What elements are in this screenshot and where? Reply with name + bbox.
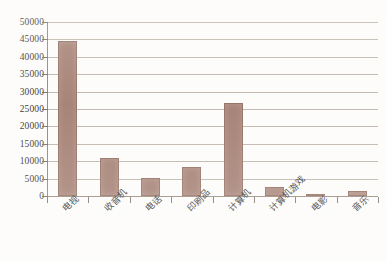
x-tick-mark [337, 197, 338, 203]
y-tick-label: 45000 [0, 34, 44, 44]
bars-layer [47, 22, 378, 196]
y-tick-label: 30000 [0, 87, 44, 97]
bar [58, 41, 77, 196]
x-tick-mark [213, 197, 214, 203]
x-tick-mark [378, 197, 379, 203]
y-tick-label: 35000 [0, 69, 44, 79]
y-tick-label: 5000 [0, 174, 44, 184]
x-tick-mark [130, 197, 131, 203]
y-tick-label: 50000 [0, 17, 44, 27]
y-tick-label: 25000 [0, 104, 44, 114]
bar-chart: 0500010000150002000025000300003500040000… [0, 0, 386, 262]
x-tick-mark [254, 197, 255, 203]
bar [224, 103, 243, 196]
x-tick-mark [295, 197, 296, 203]
x-tick-mark [171, 197, 172, 203]
y-tick-label: 40000 [0, 52, 44, 62]
y-tick-label: 0 [0, 191, 44, 201]
x-tick-mark [47, 197, 48, 203]
x-tick-mark [88, 197, 89, 203]
y-tick-label: 10000 [0, 156, 44, 166]
y-tick-label: 15000 [0, 139, 44, 149]
y-tick-label: 20000 [0, 121, 44, 131]
